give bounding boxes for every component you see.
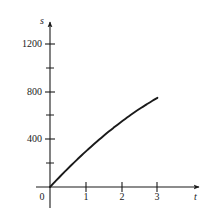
y-axis-label: s	[40, 16, 44, 26]
chart-figure: s t 1200 800 400 0 1 2 3	[0, 0, 210, 220]
y-tick-label-800: 800	[8, 87, 42, 97]
data-series-curve	[50, 98, 157, 187]
x-axis-label: t	[194, 192, 197, 202]
y-tick-label-400: 400	[8, 134, 42, 144]
chart-plot-area	[0, 0, 210, 220]
origin-label: 0	[36, 192, 48, 202]
y-tick-label-1200: 1200	[8, 39, 42, 49]
x-tick-label-2: 2	[116, 192, 128, 202]
x-tick-label-3: 3	[151, 192, 163, 202]
x-tick-label-1: 1	[80, 192, 92, 202]
